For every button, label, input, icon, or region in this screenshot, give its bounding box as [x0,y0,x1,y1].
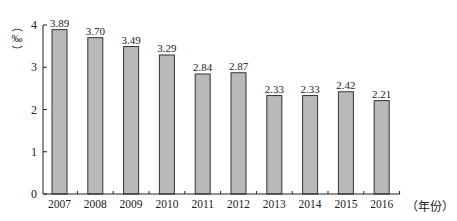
bar-2016 [374,101,389,194]
x-tick-label: 2013 [263,198,286,210]
x-tick-label: 2011 [191,198,214,210]
data-label: 2.33 [300,83,320,95]
data-label: 2.21 [372,88,391,100]
x-tick-label: 2007 [48,198,71,210]
x-tick-label: 2012 [227,198,250,210]
bar-2013 [267,96,282,194]
chart-canvas: 3.8920073.7020083.4920093.2920102.842011… [0,0,457,221]
x-axis-unit-label: （年份） [406,197,454,215]
y-tick-label: 1 [31,145,37,159]
y-unit-open-paren: （ [11,19,23,33]
x-tick-label: 2009 [120,198,143,210]
y-tick-label: 3 [31,60,37,74]
y-tick-label: 0 [31,187,37,201]
data-label: 3.70 [86,25,106,37]
bar-2014 [303,96,318,194]
x-tick-label: 2016 [370,198,393,210]
bar-2008 [88,38,103,194]
x-tick-label: 2015 [334,198,357,210]
y-axis-unit-label: （ ‰ ） [10,20,24,56]
data-label: 3.29 [157,42,177,54]
data-label: 2.87 [229,60,249,72]
y-unit-close-paren: ） [11,43,23,57]
bar-2015 [338,92,353,194]
bar-2010 [159,55,174,194]
x-tick-label: 2014 [299,198,322,210]
data-label: 3.49 [121,34,141,46]
data-label: 2.84 [193,61,213,73]
data-label: 2.33 [265,83,285,95]
x-tick-label: 2010 [155,198,178,210]
x-tick-label: 2008 [84,198,107,210]
y-tick-label: 2 [31,103,37,117]
data-label: 2.42 [336,79,355,91]
data-label: 3.89 [50,17,70,29]
bar-2007 [52,30,67,194]
bar-2011 [195,74,210,194]
bar-2012 [231,73,246,194]
bar-2009 [124,47,139,194]
y-tick-label: 4 [31,18,37,32]
